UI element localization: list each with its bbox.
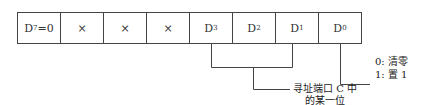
- set-reset-label-0: 0: 清零: [375, 56, 408, 68]
- bit-select-label-1: 寻址端口 C 中: [293, 83, 357, 95]
- connector-lines: [0, 0, 425, 105]
- bit-select-label-2: 的某一位: [305, 95, 345, 105]
- bit-select-leader: [254, 68, 291, 90]
- set-reset-label-1: 1: 置 1: [375, 69, 407, 81]
- bit-select-bracket: [212, 44, 293, 68]
- set-reset-leader: [341, 44, 371, 85]
